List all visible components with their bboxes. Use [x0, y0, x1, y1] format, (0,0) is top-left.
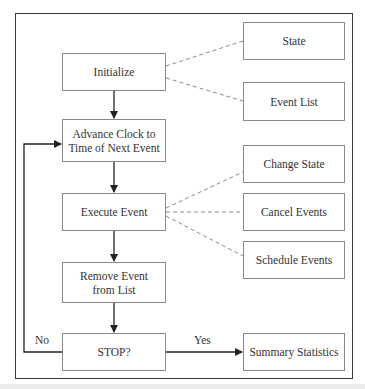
dashed-initialize-state [166, 41, 243, 66]
box-summary-statistics-label: Summary Statistics [249, 345, 338, 359]
edge-label-yes: Yes [194, 334, 211, 346]
box-event-list: Event List [243, 82, 345, 121]
box-state-label: State [283, 34, 306, 48]
box-state: State [243, 22, 345, 60]
box-initialize: Initialize [62, 53, 166, 91]
dashed-initialize-eventlist [166, 78, 243, 101]
box-schedule-events: Schedule Events [243, 241, 345, 279]
box-cancel-events: Cancel Events [243, 193, 345, 231]
box-execute-event: Execute Event [62, 193, 166, 231]
box-cancel-events-label: Cancel Events [261, 205, 327, 219]
box-advance-clock-line1: Advance Clock to [72, 127, 155, 141]
box-stop-decision: STOP? [62, 333, 166, 371]
bottom-strip [0, 384, 365, 389]
box-advance-clock: Advance Clock to Time of Next Event [62, 119, 166, 162]
box-change-state: Change State [243, 145, 345, 183]
dashed-execute-schedule [166, 216, 243, 256]
dashed-execute-changestate [166, 172, 243, 208]
box-summary-statistics: Summary Statistics [243, 333, 345, 371]
box-remove-event-line1: Remove Event [80, 269, 148, 283]
box-event-list-label: Event List [270, 95, 318, 109]
box-stop-label: STOP? [97, 345, 130, 359]
box-advance-clock-line2: Time of Next Event [68, 141, 159, 155]
box-execute-event-label: Execute Event [81, 205, 148, 219]
flowchart-canvas: Initialize Advance Clock to Time of Next… [0, 0, 365, 389]
arrow-no-loop [24, 144, 62, 352]
box-remove-event-line2: from List [92, 283, 135, 297]
box-change-state-label: Change State [264, 157, 325, 171]
box-schedule-events-label: Schedule Events [256, 253, 332, 267]
box-initialize-label: Initialize [94, 65, 135, 79]
edge-label-no: No [35, 334, 49, 346]
box-remove-event: Remove Event from List [62, 262, 166, 303]
